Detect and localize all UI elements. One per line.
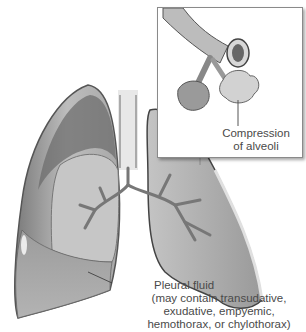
inset-label: Compression of alveoli: [218, 127, 294, 153]
pleural-fluid-detail: (may contain transudative, exudative, em…: [131, 292, 306, 331]
pleural-fluid-title: Pleural fluid: [154, 279, 214, 292]
inset-label-line1: Compression: [218, 127, 294, 140]
alveoli-cluster: [220, 70, 259, 103]
detail-line: hemothorax, or chylothorax): [131, 318, 306, 331]
inset-label-line2: of alveoli: [218, 140, 294, 153]
detail-line: (may contain transudative,: [131, 292, 306, 305]
trachea: [118, 90, 138, 170]
collapsed-alveoli: [178, 81, 209, 110]
detail-line: exudative, empyemic,: [131, 305, 306, 318]
